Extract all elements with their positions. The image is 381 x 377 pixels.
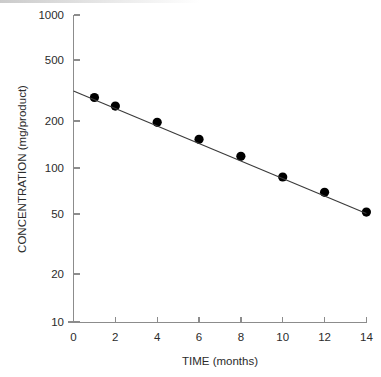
- y-tick-label: 50: [51, 208, 64, 220]
- y-axis-title: CONCENTRATION (mg/product): [16, 85, 28, 253]
- x-tick-label: 14: [360, 331, 373, 343]
- data-series-layer: [74, 91, 372, 217]
- concentration-vs-time-chart: 1000 500 200 100 50 20 10 0 2 4 6 8 10 1…: [0, 0, 381, 377]
- x-tick-label: 8: [238, 331, 244, 343]
- y-tick-label: 500: [45, 54, 64, 66]
- y-tick-label: 10: [51, 316, 64, 328]
- x-axis-title: TIME (months): [182, 355, 258, 367]
- x-axis-tick-labels: 0 2 4 6 8 10 12 14: [70, 331, 373, 343]
- chart-figure: 1000 500 200 100 50 20 10 0 2 4 6 8 10 1…: [0, 0, 381, 377]
- x-axis-tick-marks: [74, 317, 367, 323]
- x-tick-label: 0: [70, 331, 76, 343]
- x-tick-label: 4: [154, 331, 161, 343]
- y-axis-tick-labels: 1000 500 200 100 50 20 10: [38, 9, 64, 328]
- x-tick-label: 10: [276, 331, 289, 343]
- x-tick-label: 2: [112, 331, 118, 343]
- y-tick-label: 200: [45, 115, 64, 127]
- y-tick-label: 100: [45, 162, 64, 174]
- y-tick-label: 1000: [38, 9, 64, 21]
- x-tick-label: 6: [196, 331, 202, 343]
- y-tick-label: 20: [51, 268, 64, 280]
- regression-line: [74, 91, 367, 213]
- x-tick-label: 12: [318, 331, 331, 343]
